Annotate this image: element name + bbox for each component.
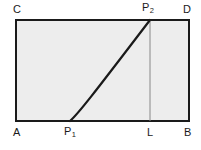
point-label-p2-base: P	[142, 1, 150, 13]
point-label-p1-base: P	[64, 125, 72, 137]
vertex-label-b: B	[184, 127, 192, 138]
point-label-p1-subscript: 1	[72, 130, 76, 139]
geometry-canvas	[0, 0, 201, 150]
geometry-figure: C D A B L P1 P2	[0, 0, 201, 150]
point-label-p1: P1	[64, 126, 76, 137]
point-label-p2-subscript: 2	[150, 6, 154, 15]
point-label-p2: P2	[142, 2, 154, 13]
vertex-label-c: C	[13, 4, 21, 15]
vertex-label-l: L	[147, 127, 153, 138]
rectangle-ABDC	[16, 20, 189, 121]
vertex-label-d: D	[183, 4, 191, 15]
vertex-label-a: A	[13, 127, 21, 138]
